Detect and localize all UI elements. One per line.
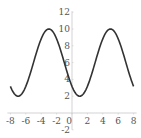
axes — [7, 11, 136, 130]
x-tick-label: -6 — [21, 116, 30, 126]
x-tick-label: -2 — [52, 116, 61, 126]
y-tick-label: 10 — [59, 24, 71, 34]
y-tick-label: -2 — [61, 125, 70, 135]
x-tick-label: 4 — [100, 116, 106, 126]
x-tick-label: 2 — [85, 116, 91, 126]
tick-labels: -8-6-4-20246812108642-2 — [6, 7, 137, 135]
y-tick-label: 2 — [64, 91, 70, 101]
chart: -8-6-4-20246812108642-2 — [0, 0, 141, 138]
x-tick-label: -4 — [37, 116, 46, 126]
y-tick-label: 12 — [59, 7, 70, 17]
x-tick-label: -8 — [6, 116, 15, 126]
x-tick-label: 6 — [115, 116, 121, 126]
y-tick-label: 8 — [64, 41, 70, 51]
x-tick-label: 8 — [131, 116, 137, 126]
